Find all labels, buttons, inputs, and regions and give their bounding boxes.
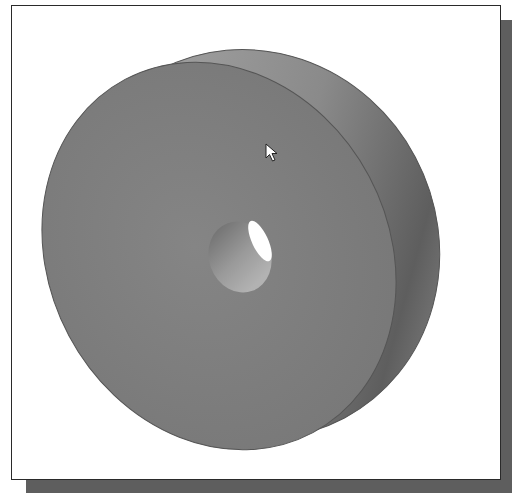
3d-viewport[interactable] [12,6,500,479]
disc-model[interactable] [12,6,501,480]
arrow-pointer-icon [265,143,279,163]
graphics-window[interactable] [11,5,501,480]
